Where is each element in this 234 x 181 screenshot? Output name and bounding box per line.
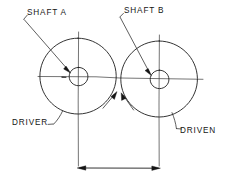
driven-leader-line (172, 113, 176, 129)
driver-label: DRIVER (12, 119, 48, 127)
shaft-b-leader-tick (120, 13, 124, 17)
dimension-arrowhead-left (77, 166, 86, 170)
leader-lines (24, 13, 182, 129)
driven-hub-circle (150, 70, 169, 88)
centerlines (38, 32, 203, 166)
dimension-arrowhead-right (152, 166, 161, 170)
shaft-b-label: SHAFT B (124, 7, 164, 15)
shaft-a-label: SHAFT A (27, 9, 67, 17)
center-distance-dimension (77, 166, 160, 171)
shaft-a-arrowhead (64, 66, 71, 73)
driven-label: DRIVEN (180, 127, 216, 135)
driver-leader-line (54, 111, 63, 124)
shaft-b-arrowhead (145, 69, 151, 76)
shaft-a-leader-line (24, 20, 68, 71)
mesh-point-arrows (103, 92, 134, 110)
diagram-canvas (0, 0, 234, 181)
engineering-diagram: SHAFT A SHAFT B DRIVER DRIVEN (0, 0, 234, 181)
shaft-b-leader-line (120, 17, 149, 72)
